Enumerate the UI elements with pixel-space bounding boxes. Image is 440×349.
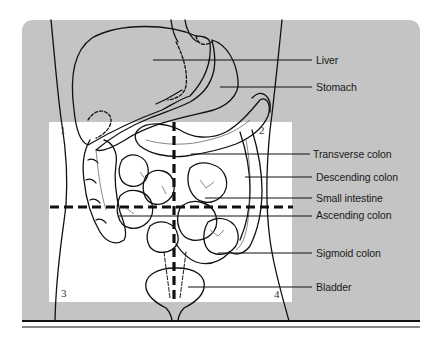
label-transverse-colon: Transverse colon — [313, 148, 392, 160]
quadrant-number-2: 2 — [259, 124, 265, 136]
quadrant-number-3: 3 — [61, 287, 67, 299]
quadrant-number-4: 4 — [274, 288, 280, 300]
label-small-intestine: Small intestine — [316, 192, 383, 204]
label-stomach: Stomach — [316, 81, 357, 93]
label-descending-colon: Descending colon — [316, 171, 398, 183]
label-bladder: Bladder — [316, 281, 352, 293]
label-ascending-colon: Ascending colon — [316, 209, 392, 221]
label-sigmoid-colon: Sigmoid colon — [316, 247, 381, 259]
label-liver: Liver — [316, 54, 338, 66]
quadrant-number-1: 1 — [60, 124, 66, 136]
